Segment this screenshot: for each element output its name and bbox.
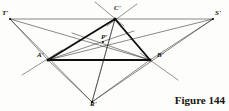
point-label-s: S' — [215, 10, 221, 17]
figure-144: T' S' C' A' B' R' P' Figure 144 — [0, 0, 229, 111]
vertex-dot-b — [149, 59, 152, 62]
line-a-to-r — [48, 60, 92, 102]
line-b-to-r — [92, 60, 150, 102]
cevian-a-to-p — [48, 31, 134, 60]
point-label-b: B' — [157, 52, 164, 59]
figure-caption: Figure 144 — [175, 95, 225, 106]
point-label-p: P' — [101, 34, 107, 41]
vertex-dot-t — [9, 18, 11, 20]
bold-triangle-abc — [48, 19, 150, 60]
vertex-dot-s — [212, 18, 214, 20]
point-label-t: T' — [2, 10, 8, 17]
vertex-dot-a — [47, 59, 50, 62]
vertex-dot-c — [113, 17, 116, 20]
point-label-c: C' — [114, 5, 121, 12]
ray-upper-right-of-c — [107, 4, 137, 26]
line-s-to-a — [48, 19, 213, 60]
point-label-r: R' — [90, 101, 97, 108]
vertex-dot-p — [102, 41, 104, 43]
extension-rays — [22, 2, 178, 80]
point-label-a: A' — [37, 52, 44, 59]
